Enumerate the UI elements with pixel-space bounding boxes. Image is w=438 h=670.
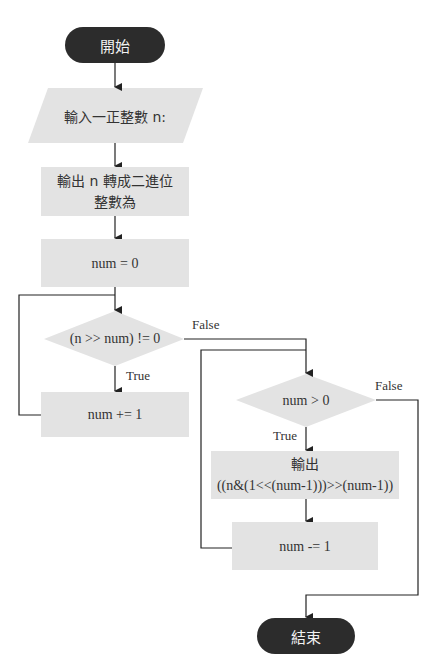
output-bit-line1: 輸出 xyxy=(291,454,319,475)
condition2-label: num > 0 xyxy=(256,387,356,415)
init-label: num = 0 xyxy=(92,253,139,274)
output-intro-line1: 輸出 n 轉成二進位 xyxy=(57,171,173,192)
output-bit-line2: ((n&(1<<(num-1)))>>(num-1)) xyxy=(217,475,393,496)
output-intro-box: 輸出 n 轉成二進位 整數為 xyxy=(41,167,189,216)
decrement-label: num -= 1 xyxy=(279,536,330,557)
condition2-false-label: False xyxy=(375,378,402,394)
condition2-true-label: True xyxy=(273,428,297,444)
output-bit-box: 輸出 ((n&(1<<(num-1)))>>(num-1)) xyxy=(211,451,399,499)
decrement-box: num -= 1 xyxy=(232,522,378,570)
condition1-label: (n >> num) != 0 xyxy=(60,325,170,353)
end-label: 結束 xyxy=(291,626,321,647)
end-terminal: 結束 xyxy=(257,618,355,654)
condition1-false-label: False xyxy=(192,317,219,333)
start-label: 開始 xyxy=(100,35,130,56)
condition1-true-label: True xyxy=(126,368,150,384)
start-terminal: 開始 xyxy=(65,27,165,63)
increment-box: num += 1 xyxy=(41,392,189,437)
init-box: num = 0 xyxy=(41,239,189,287)
increment-label: num += 1 xyxy=(88,404,143,425)
output-intro-line2: 整數為 xyxy=(94,192,136,213)
input-label: 輸入一正整數 n: xyxy=(30,88,200,143)
